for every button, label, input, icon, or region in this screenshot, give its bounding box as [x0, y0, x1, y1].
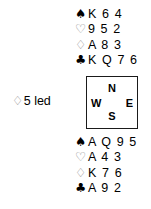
diamond-icon: ♢ — [75, 39, 86, 52]
club-icon: ♣ — [75, 54, 86, 67]
south-diamond-ranks: K 7 6 — [86, 167, 123, 180]
spade-icon: ♠ — [75, 8, 86, 21]
compass-east-label: E — [126, 97, 133, 108]
north-club-line: ♣ K Q 7 6 — [75, 53, 151, 69]
south-hand: ♠ A Q 9 5 ♡ A 4 3 ♢ K 7 6 ♣ A 9 2 — [75, 134, 151, 196]
south-heart-ranks: A 4 3 — [86, 151, 122, 164]
south-club-ranks: A 9 2 — [86, 182, 122, 195]
north-diamond-ranks: A 8 3 — [86, 39, 122, 52]
compass-box: N W E S — [86, 76, 138, 129]
north-spade-line: ♠ K 6 4 — [75, 6, 151, 22]
north-heart-line: ♡ 9 5 2 — [75, 22, 151, 38]
compass-north-label: N — [87, 83, 137, 94]
south-club-line: ♣ A 9 2 — [75, 181, 151, 197]
opening-lead-note: ♢ 5 led — [12, 95, 51, 108]
heart-icon: ♡ — [75, 23, 86, 36]
north-hand: ♠ K 6 4 ♡ 9 5 2 ♢ A 8 3 ♣ K Q 7 6 — [75, 6, 151, 68]
north-heart-ranks: 9 5 2 — [86, 23, 121, 36]
compass-west-label: W — [91, 97, 101, 108]
opening-lead-text: 5 led — [23, 95, 51, 108]
south-diamond-line: ♢ K 7 6 — [75, 165, 151, 181]
heart-icon: ♡ — [75, 151, 86, 164]
diamond-icon: ♢ — [75, 167, 86, 180]
north-diamond-line: ♢ A 8 3 — [75, 37, 151, 53]
north-club-ranks: K Q 7 6 — [86, 54, 138, 67]
compass-south-label: S — [87, 111, 137, 122]
bridge-hand-diagram: ♠ K 6 4 ♡ 9 5 2 ♢ A 8 3 ♣ K Q 7 6 N W E … — [0, 0, 151, 209]
north-spade-ranks: K 6 4 — [86, 8, 123, 21]
spade-icon: ♠ — [75, 136, 86, 149]
south-heart-line: ♡ A 4 3 — [75, 150, 151, 166]
south-spade-ranks: A Q 9 5 — [86, 136, 137, 149]
south-spade-line: ♠ A Q 9 5 — [75, 134, 151, 150]
diamond-icon: ♢ — [12, 95, 23, 108]
club-icon: ♣ — [75, 182, 86, 195]
